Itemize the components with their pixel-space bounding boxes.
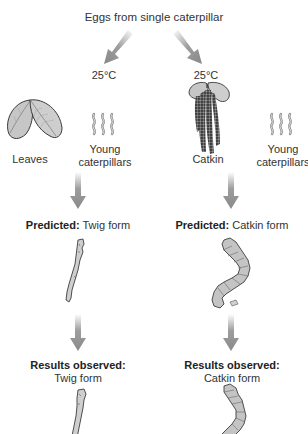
arrow-icon-down-left-2: [69, 314, 87, 352]
arrow-icon-down-right-2: [222, 314, 240, 352]
larvae-label-left: Young caterpillars: [76, 143, 134, 169]
arrow-icon-down-left-1: [69, 172, 87, 210]
food-label-leaves: Leaves: [10, 153, 50, 166]
temperature-label-left: 25°C: [84, 69, 124, 82]
predicted-value-right: Catkin form: [232, 219, 288, 231]
larvae-label-left-line2: caterpillars: [76, 156, 134, 169]
leaves-icon: [4, 94, 66, 142]
results-label-left: Results observed: Twig form: [18, 359, 138, 385]
predicted-label-right: Predicted: Catkin form: [170, 219, 294, 232]
catkin-form-caterpillar-icon-predicted: [210, 238, 258, 310]
results-value-left: Twig form: [18, 372, 138, 385]
larvae-label-right-line1: Young: [254, 143, 308, 156]
twig-form-caterpillar-icon-predicted: [64, 238, 88, 304]
catkin-icon: [186, 80, 232, 156]
young-caterpillars-icon-right: [268, 113, 298, 135]
diagram-title: Eggs from single caterpillar: [0, 11, 308, 24]
arrow-icon-diagonal-left: [100, 28, 134, 70]
catkin-form-caterpillar-icon-observed: [214, 384, 254, 434]
predicted-label-left: Predicted: Twig form: [18, 219, 138, 232]
predicted-prefix-right: Predicted:: [175, 219, 229, 231]
larvae-label-right: Young caterpillars: [254, 143, 308, 169]
predicted-prefix-left: Predicted:: [26, 219, 80, 231]
young-caterpillars-icon-left: [90, 113, 120, 135]
twig-form-caterpillar-icon-observed: [66, 388, 90, 434]
larvae-label-right-line2: caterpillars: [254, 156, 308, 169]
results-prefix-right: Results observed:: [184, 359, 279, 371]
larvae-label-left-line1: Young: [76, 143, 134, 156]
food-label-catkin: Catkin: [188, 153, 228, 166]
arrow-icon-down-right-1: [222, 172, 240, 210]
predicted-value-left: Twig form: [82, 219, 130, 231]
arrow-icon-diagonal-right: [172, 28, 206, 70]
results-label-right: Results observed: Catkin form: [170, 359, 294, 385]
results-prefix-left: Results observed:: [30, 359, 125, 371]
